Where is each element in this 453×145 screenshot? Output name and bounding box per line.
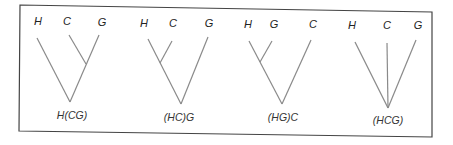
tree-label: (HG)C xyxy=(268,111,298,123)
leaf-label: C xyxy=(383,19,391,31)
leaf-label: C xyxy=(169,17,177,29)
leaf-label: H xyxy=(244,18,252,30)
tree-h-cg xyxy=(37,35,99,102)
leaf-label: H xyxy=(348,19,356,31)
tree-label: H(CG) xyxy=(57,109,87,121)
leaf-label: H xyxy=(140,17,148,29)
leaf-label: G xyxy=(205,17,214,29)
leaf-label: H xyxy=(34,15,42,27)
leaf-label: C xyxy=(63,15,71,27)
leaf-label: G xyxy=(414,19,423,31)
phylogeny-figure: H C G H(CG) H C G (HC)G H G C (HG)C H C … xyxy=(0,0,453,145)
tree-hcg xyxy=(355,40,416,108)
tree-hg-c xyxy=(249,40,311,104)
leaf-label: G xyxy=(98,16,107,28)
leaf-label: C xyxy=(309,18,317,30)
leaf-label: G xyxy=(270,18,279,30)
tree-label: (HC)G xyxy=(164,111,194,123)
tree-label: (HCG) xyxy=(373,114,403,126)
tree-hc-g xyxy=(148,37,208,104)
